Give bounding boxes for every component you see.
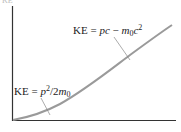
relativistic-label: KE = pc − m0c2 (73, 23, 142, 38)
classical-label: KE = p2/2m0 (14, 84, 70, 99)
ke-curve (13, 25, 172, 120)
y-axis-label: KE (2, 0, 13, 5)
relativistic-leader-line (114, 37, 130, 60)
ke-momentum-diagram: KE KE = pc − m0c2 KE = p2/2m0 (0, 0, 181, 132)
